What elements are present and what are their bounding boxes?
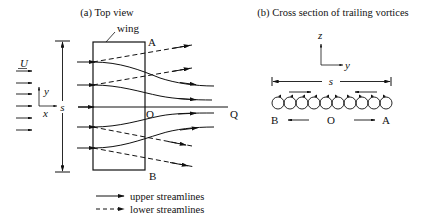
axis-y-label: y bbox=[43, 85, 49, 97]
trailing-vortices-diagram: (a) Top view wing A B O Q s U bbox=[0, 0, 428, 222]
wing-planform bbox=[93, 42, 145, 170]
panel-b-title: (b) Cross section of trailing vortices bbox=[257, 7, 408, 19]
axis-z-label: z bbox=[317, 29, 323, 41]
vortex-row bbox=[272, 97, 392, 109]
legend-upper-label: upper streamlines bbox=[130, 191, 204, 202]
point-a-label-b: A bbox=[382, 114, 390, 126]
wing-leader-line bbox=[106, 32, 115, 42]
vortex-rotation-marks bbox=[278, 95, 386, 98]
point-b-label-b: B bbox=[271, 114, 278, 126]
point-q-label: Q bbox=[230, 108, 238, 120]
panel-top-view: (a) Top view wing A B O Q s U bbox=[16, 7, 238, 215]
freestream-arrows: U bbox=[16, 57, 32, 130]
point-o-label-b: O bbox=[327, 114, 335, 126]
span-dimension: s bbox=[55, 41, 70, 172]
span-label-b: s bbox=[329, 75, 333, 87]
freestream-label: U bbox=[20, 57, 29, 69]
point-a-label: A bbox=[148, 36, 156, 48]
axis-y-label-b: y bbox=[344, 59, 350, 71]
wing-label: wing bbox=[117, 22, 140, 34]
legend: upper streamlines lower streamlines bbox=[96, 191, 204, 215]
legend-lower-label: lower streamlines bbox=[130, 204, 204, 215]
point-b-label: B bbox=[149, 170, 156, 182]
zy-axes: z y bbox=[317, 29, 350, 71]
panel-a-title: (a) Top view bbox=[80, 7, 134, 19]
axis-x-label: x bbox=[42, 107, 48, 119]
span-dimension-b: s bbox=[272, 75, 391, 87]
panel-cross-section: (b) Cross section of trailing vortices z… bbox=[257, 7, 408, 126]
span-label: s bbox=[60, 101, 64, 113]
xy-axes: y x bbox=[39, 85, 57, 119]
